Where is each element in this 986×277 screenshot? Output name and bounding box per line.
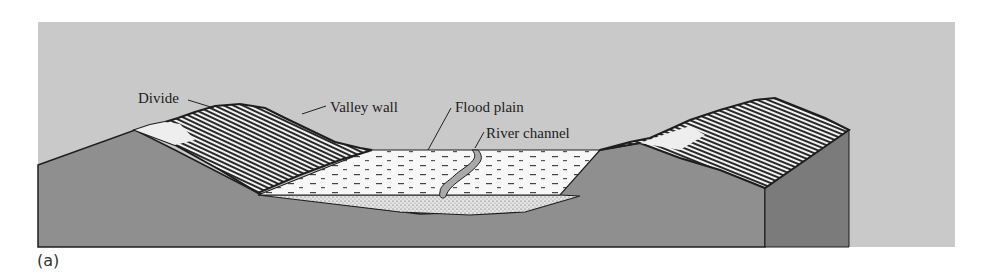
divide-label: Divide bbox=[138, 90, 179, 106]
valley-cross-section-diagram: Divide Valley wall Flood plain River cha… bbox=[0, 0, 986, 277]
river-channel-label: River channel bbox=[486, 125, 570, 141]
valley-wall-label: Valley wall bbox=[330, 99, 398, 115]
flood-plain-label: Flood plain bbox=[455, 99, 524, 115]
panel-label: (a) bbox=[37, 251, 59, 270]
